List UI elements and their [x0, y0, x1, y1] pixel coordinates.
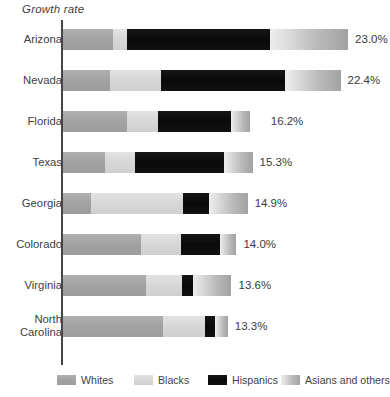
- bar-segment-blacks: [110, 70, 161, 91]
- bar-segment-blacks: [141, 234, 181, 255]
- stacked-bar: [63, 316, 228, 337]
- chart-row: Texas15.3%: [0, 143, 390, 184]
- stacked-bar: [63, 234, 236, 255]
- bar-segment-blacks: [163, 316, 205, 337]
- value-label: 15.3%: [260, 156, 293, 168]
- bar-segment-blacks: [91, 193, 183, 214]
- bar-segment-asians-and-others: [215, 316, 227, 337]
- bar-segment-hispanics: [158, 111, 231, 132]
- bar-segment-hispanics: [161, 70, 285, 91]
- value-label: 13.6%: [239, 279, 272, 291]
- bar-segment-whites: [63, 316, 163, 337]
- legend-label: Asians and others: [305, 374, 390, 386]
- legend-item-hispanics[interactable]: Hispanics: [208, 373, 278, 386]
- chart-row: Georgia14.9%: [0, 184, 390, 225]
- bar-segment-asians-and-others: [224, 152, 252, 173]
- bar-segment-whites: [63, 275, 146, 296]
- legend-swatch-whites: [57, 375, 76, 385]
- legend-label: Whites: [81, 374, 113, 386]
- value-label: 22.4%: [348, 74, 381, 86]
- category-label-georgia: Georgia: [0, 197, 62, 210]
- value-label: 14.9%: [255, 197, 288, 209]
- bar-segment-blacks: [146, 275, 182, 296]
- legend-item-whites[interactable]: Whites: [57, 373, 113, 386]
- bar-segment-whites: [63, 234, 141, 255]
- bar-segment-asians-and-others: [270, 29, 348, 50]
- chart-row: Florida16.2%: [0, 102, 390, 143]
- stacked-bar: [63, 152, 253, 173]
- bar-segment-blacks: [105, 152, 135, 173]
- category-label-colorado: Colorado: [0, 238, 62, 251]
- bar-segment-whites: [63, 193, 91, 214]
- bar-segment-blacks: [127, 111, 158, 132]
- bar-segment-hispanics: [182, 275, 193, 296]
- value-label: 23.0%: [355, 33, 388, 45]
- category-label-arizona: Arizona: [0, 33, 62, 46]
- bar-segment-hispanics: [205, 316, 215, 337]
- bar-segment-blacks: [113, 29, 128, 50]
- legend-swatch-blacks: [134, 375, 153, 385]
- plot-area: Arizona23.0%Nevada22.4%Florida16.2%Texas…: [0, 20, 390, 365]
- stacked-bar: [63, 29, 348, 50]
- chart-legend: WhitesBlacksHispanicsAsians and others: [0, 373, 390, 391]
- bar-segment-asians-and-others: [209, 193, 247, 214]
- stacked-bar: [63, 275, 232, 296]
- chart-row: Virginia13.6%: [0, 266, 390, 307]
- category-label-florida: Florida: [0, 115, 62, 128]
- category-label-texas: Texas: [0, 156, 62, 169]
- stacked-bar: [63, 193, 248, 214]
- chart-row: Arizona23.0%: [0, 20, 390, 61]
- category-label-virginia: Virginia: [0, 279, 62, 292]
- value-label: 14.0%: [243, 238, 276, 250]
- bar-segment-asians-and-others: [220, 234, 236, 255]
- bar-segment-whites: [63, 111, 127, 132]
- value-label: 13.3%: [235, 320, 268, 332]
- bar-segment-hispanics: [127, 29, 270, 50]
- legend-item-blacks[interactable]: Blacks: [134, 373, 189, 386]
- bar-segment-asians-and-others: [193, 275, 231, 296]
- legend-item-asians-and-others[interactable]: Asians and others: [281, 373, 390, 386]
- chart-row: Colorado14.0%: [0, 225, 390, 266]
- bar-segment-hispanics: [183, 193, 209, 214]
- chart-row: Nevada22.4%: [0, 61, 390, 102]
- legend-swatch-asians-and-others: [281, 375, 300, 385]
- legend-label: Blacks: [158, 374, 189, 386]
- legend-label: Hispanics: [232, 374, 278, 386]
- bar-segment-asians-and-others: [285, 70, 341, 91]
- category-label-nevada: Nevada: [0, 74, 62, 87]
- chart-title: Growth rate: [22, 3, 84, 15]
- stacked-bar-chart: Growth rate Arizona23.0%Nevada22.4%Flori…: [0, 0, 390, 397]
- legend-swatch-hispanics: [208, 375, 227, 385]
- bar-segment-asians-and-others: [231, 111, 250, 132]
- chart-row: North Carolina13.3%: [0, 307, 390, 348]
- bar-segment-whites: [63, 152, 105, 173]
- bar-segment-whites: [63, 29, 113, 50]
- value-label: 16.2%: [271, 115, 304, 127]
- stacked-bar: [63, 111, 264, 132]
- bar-segment-whites: [63, 70, 110, 91]
- bar-segment-hispanics: [135, 152, 224, 173]
- category-label-north-carolina: North Carolina: [0, 313, 62, 338]
- bar-segment-hispanics: [181, 234, 221, 255]
- stacked-bar: [63, 70, 341, 91]
